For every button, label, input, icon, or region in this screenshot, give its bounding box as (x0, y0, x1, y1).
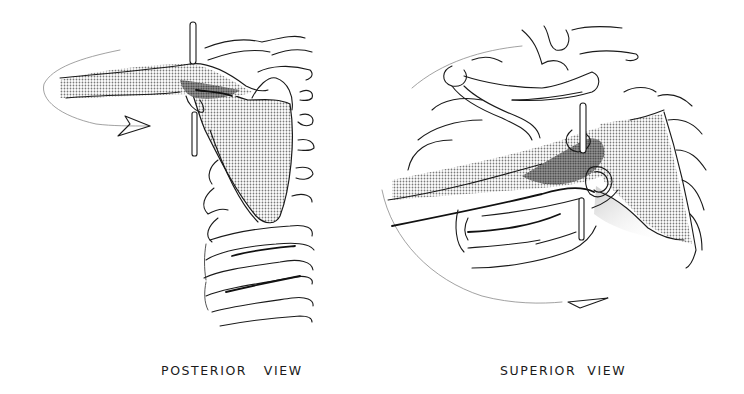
superior-view-figure: SUPERIOR VIEW (372, 0, 744, 394)
scapula (594, 88, 706, 269)
superior-view-illustration (372, 0, 744, 394)
posterior-view-figure: POSTERIOR VIEW (0, 0, 372, 394)
lower-ribs (456, 190, 618, 268)
vertebral-column (472, 26, 638, 70)
superior-view-caption: SUPERIOR VIEW (500, 363, 626, 378)
posterior-view-caption: POSTERIOR VIEW (161, 363, 303, 378)
posterior-view-illustration (0, 0, 372, 394)
